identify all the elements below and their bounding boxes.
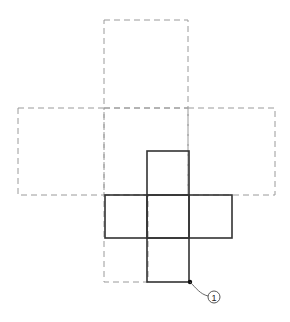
cube-net-diagram: 1 <box>0 0 290 322</box>
callout-label: 1 <box>211 293 216 303</box>
dashed-square-left <box>18 108 104 195</box>
solid-square-bottom <box>147 238 189 282</box>
callout-leader-line <box>190 282 208 296</box>
dashed-square-top <box>104 20 188 108</box>
dashed-square-right <box>188 108 275 195</box>
solid-square-center <box>147 195 189 238</box>
callout-1: 1 <box>188 280 220 303</box>
solid-square-left <box>105 195 147 238</box>
solid-square-right <box>189 195 232 238</box>
solid-net <box>105 151 232 282</box>
solid-square-top <box>147 151 189 195</box>
